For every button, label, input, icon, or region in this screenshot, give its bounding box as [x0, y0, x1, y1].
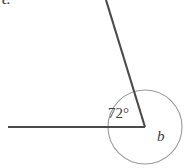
- angle-diagram-svg: 72° b: [0, 0, 187, 168]
- variable-label: b: [157, 128, 165, 144]
- item-label: c.: [2, 0, 10, 5]
- geometry-figure: c. 72° b: [0, 0, 187, 168]
- angle-measure-label: 72°: [108, 105, 129, 121]
